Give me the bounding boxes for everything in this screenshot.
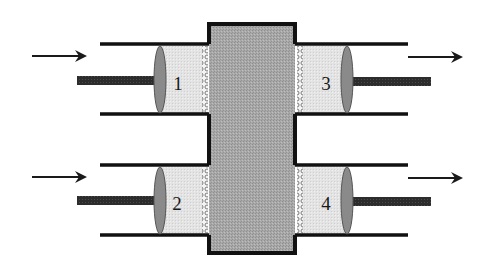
piston-rod-2 bbox=[77, 196, 157, 205]
cylinder-label-1: 1 bbox=[173, 73, 183, 94]
piston-rod-4 bbox=[351, 197, 431, 206]
membrane-2 bbox=[202, 167, 208, 234]
piston-membrane-diagram: 1 3 2 4 bbox=[0, 0, 489, 280]
cylinder-label-3: 3 bbox=[321, 73, 331, 94]
cylinder-label-4: 4 bbox=[321, 193, 331, 214]
piston-rod-3 bbox=[351, 77, 431, 86]
chamber-2 bbox=[160, 167, 206, 234]
piston-3 bbox=[341, 46, 353, 113]
membrane-1 bbox=[202, 46, 208, 113]
piston-4 bbox=[341, 167, 353, 234]
membrane-4 bbox=[297, 167, 303, 234]
membrane-3 bbox=[297, 46, 303, 113]
central-block-fill bbox=[209, 24, 295, 253]
piston-1 bbox=[154, 46, 166, 113]
piston-rod-1 bbox=[77, 76, 157, 85]
piston-2 bbox=[154, 167, 166, 234]
cylinder-label-2: 2 bbox=[172, 193, 182, 214]
chamber-1 bbox=[160, 46, 206, 113]
